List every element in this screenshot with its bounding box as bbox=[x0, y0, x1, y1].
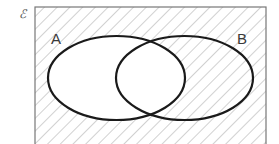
universal-set-label: ℰ bbox=[19, 7, 28, 21]
set-a-label: A bbox=[51, 30, 61, 47]
shaded-region-a-complement bbox=[35, 7, 266, 144]
venn-diagram: ℰ A B bbox=[0, 0, 279, 144]
set-b-label: B bbox=[237, 30, 247, 47]
